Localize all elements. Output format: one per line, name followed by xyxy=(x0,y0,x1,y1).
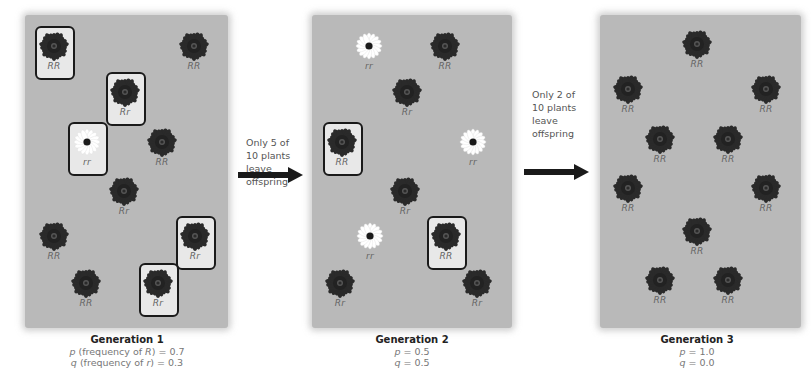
white-flower-icon xyxy=(71,126,103,158)
red-flower-icon xyxy=(644,264,676,296)
plant: RR xyxy=(176,30,216,80)
plant: RR xyxy=(36,220,76,270)
plant: rr xyxy=(351,30,391,80)
red-flower-icon xyxy=(326,126,358,158)
right-arrow-icon xyxy=(524,164,590,180)
plant: RR xyxy=(642,123,682,173)
generation-2-title: Generation 2 xyxy=(302,334,522,345)
red-flower-icon xyxy=(681,215,713,247)
plant: RR xyxy=(427,30,467,80)
genotype-label: Rr xyxy=(387,206,423,216)
plant-selected: rr xyxy=(69,126,109,176)
genotype-label: Rr xyxy=(106,206,142,216)
plant: RR xyxy=(748,172,788,222)
red-flower-icon xyxy=(108,175,140,207)
genotype-label: RR xyxy=(427,61,463,71)
genotype-label: RR xyxy=(36,61,72,71)
plant: RR xyxy=(68,267,108,317)
genotype-label: rr xyxy=(455,157,491,167)
transition-2-text: Only 2 of 10 plants leave offspring xyxy=(532,88,612,140)
genotype-label: RR xyxy=(748,104,784,114)
plant: RR xyxy=(748,73,788,123)
red-flower-icon xyxy=(70,267,102,299)
white-flower-icon xyxy=(353,30,385,62)
genotype-label: RR xyxy=(610,104,646,114)
plant: Rr xyxy=(322,267,362,317)
generation-1-q-line: q (frequency of r) = 0.3 xyxy=(17,357,237,368)
red-flower-icon xyxy=(461,267,493,299)
plant-selected: Rr xyxy=(107,76,147,126)
red-flower-icon xyxy=(612,172,644,204)
genotype-label: Rr xyxy=(389,107,425,117)
generation-3-p-line: p = 1.0 xyxy=(587,346,807,357)
genotype-label: Rr xyxy=(107,107,143,117)
red-flower-icon xyxy=(179,220,211,252)
red-flower-icon xyxy=(142,267,174,299)
genotype-label: RR xyxy=(144,157,180,167)
right-arrow-icon xyxy=(238,167,304,183)
generation-3-title: Generation 3 xyxy=(587,334,807,345)
transition-2-arrow-wrap xyxy=(524,164,604,180)
transition-1-arrow-wrap xyxy=(238,167,318,183)
generation-2-p-line: p = 0.5 xyxy=(302,346,522,357)
red-flower-icon xyxy=(146,126,178,158)
red-flower-icon xyxy=(750,73,782,105)
genotype-label: RR xyxy=(679,246,715,256)
genotype-label: RR xyxy=(176,61,212,71)
genotype-label: Rr xyxy=(459,298,495,308)
plant: RR xyxy=(610,172,650,222)
plant: RR xyxy=(710,123,750,173)
plant: RR xyxy=(610,73,650,123)
genotype-label: RR xyxy=(428,251,464,261)
genotype-label: Rr xyxy=(177,251,213,261)
plant: RR xyxy=(679,28,719,78)
red-flower-icon xyxy=(324,267,356,299)
red-flower-icon xyxy=(38,30,70,62)
genotype-label: RR xyxy=(642,154,678,164)
plant-selected: Rr xyxy=(177,220,217,270)
red-flower-icon xyxy=(712,264,744,296)
red-flower-icon xyxy=(38,220,70,252)
plant: Rr xyxy=(389,76,429,126)
genotype-label: Rr xyxy=(140,298,176,308)
plant: Rr xyxy=(459,267,499,317)
plant: RR xyxy=(679,215,719,265)
generation-2-caption: Generation 2 p = 0.5 q = 0.5 xyxy=(302,334,522,368)
genotype-label: RR xyxy=(324,157,360,167)
genotype-label: RR xyxy=(710,154,746,164)
plant-selected: RR xyxy=(36,30,76,80)
red-flower-icon xyxy=(430,220,462,252)
plant: rr xyxy=(455,126,495,176)
genotype-label: RR xyxy=(642,295,678,305)
red-flower-icon xyxy=(681,28,713,60)
transition-1: Only 5 of 10 plants leave offspring xyxy=(246,136,326,196)
transition-2: Only 2 of 10 plants leave offspring xyxy=(532,88,612,148)
generation-1-caption: Generation 1 p (frequency of R) = 0.7 q … xyxy=(17,334,237,368)
genotype-label: Rr xyxy=(322,298,358,308)
plant: Rr xyxy=(106,175,146,225)
plant: RR xyxy=(144,126,184,176)
genotype-label: RR xyxy=(610,203,646,213)
white-flower-icon xyxy=(457,126,489,158)
plant: RR xyxy=(710,264,750,314)
genotype-label: RR xyxy=(68,298,104,308)
plant: Rr xyxy=(387,175,427,225)
red-flower-icon xyxy=(178,30,210,62)
genotype-label: RR xyxy=(710,295,746,305)
red-flower-icon xyxy=(712,123,744,155)
plant-selected: RR xyxy=(428,220,468,270)
generation-3-caption: Generation 3 p = 1.0 q = 0.0 xyxy=(587,334,807,368)
red-flower-icon xyxy=(644,123,676,155)
plant-selected: RR xyxy=(324,126,364,176)
white-flower-icon xyxy=(354,220,386,252)
generation-1-p-line: p (frequency of R) = 0.7 xyxy=(17,346,237,357)
red-flower-icon xyxy=(109,76,141,108)
generation-3-q-line: q = 0.0 xyxy=(587,357,807,368)
genotype-label: rr xyxy=(352,251,388,261)
red-flower-icon xyxy=(429,30,461,62)
plant-selected: Rr xyxy=(140,267,180,317)
genotype-label: RR xyxy=(36,251,72,261)
genotype-label: RR xyxy=(679,59,715,69)
red-flower-icon xyxy=(391,76,423,108)
red-flower-icon xyxy=(389,175,421,207)
